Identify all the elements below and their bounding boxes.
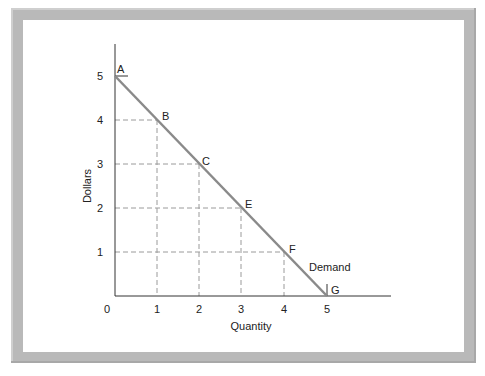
x-tick-0: 0 <box>104 303 110 315</box>
dashed-guides <box>115 120 284 296</box>
x-tick-3: 3 <box>238 303 244 315</box>
x-tick-5: 5 <box>324 303 330 315</box>
point-label-c: C <box>202 155 210 167</box>
y-tick-5: 5 <box>97 70 103 82</box>
x-tick-4: 4 <box>281 303 287 315</box>
y-tick-2: 2 <box>97 202 103 214</box>
point-label-e: E <box>245 198 252 210</box>
point-label-f: F <box>289 243 296 255</box>
y-axis-title: Dollars <box>81 168 93 203</box>
y-tick-4: 4 <box>97 114 103 126</box>
point-label-a: A <box>117 63 125 75</box>
point-label-b: B <box>162 110 169 122</box>
demand-chart: 5 4 3 2 1 0 1 2 3 4 5 A B C E F G Demand… <box>0 0 485 376</box>
x-axis-title: Quantity <box>231 320 272 332</box>
y-tick-1: 1 <box>97 246 103 258</box>
demand-curve <box>115 76 327 296</box>
demand-label: Demand <box>309 261 351 273</box>
point-label-g: G <box>331 284 340 296</box>
x-tick-2: 2 <box>196 303 202 315</box>
x-tick-1: 1 <box>154 303 160 315</box>
y-tick-3: 3 <box>97 158 103 170</box>
